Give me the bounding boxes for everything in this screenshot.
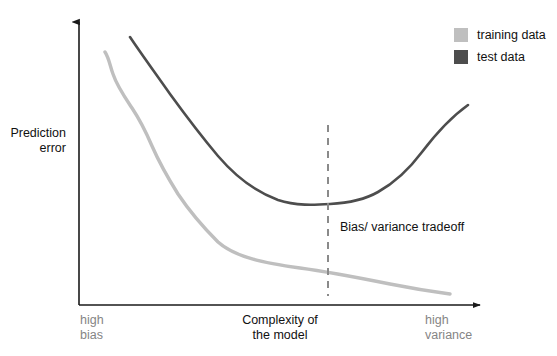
chart-legend: training data test data [454, 28, 546, 64]
y-axis-title-line2: error [40, 141, 66, 155]
x-axis-label-high-variance: highvariance [425, 313, 472, 343]
x-axis-label-high-variance-line1: high [425, 313, 449, 327]
x-axis-label-high-bias: highbias [80, 313, 104, 343]
x-axis-label-high-bias-line1: high [80, 313, 104, 327]
x-axis-title: Complexity ofthe model [210, 313, 350, 343]
legend-swatch-training-data [454, 28, 468, 42]
annotation-bias-variance-tradeoff: Bias/ variance tradeoff [340, 220, 464, 235]
y-axis-title-line1: Prediction [10, 126, 66, 140]
legend-item-training-data: training data [454, 28, 546, 42]
x-axis-title-line2: the model [253, 328, 308, 342]
bias-variance-tradeoff-chart: Predictionerror Complexity ofthe model h… [0, 0, 557, 356]
legend-label-test-data: test data [477, 50, 525, 64]
legend-label-training-data: training data [477, 28, 546, 42]
y-axis-title: Predictionerror [0, 126, 66, 156]
x-axis-label-high-bias-line2: bias [80, 328, 103, 342]
legend-swatch-test-data [454, 50, 468, 64]
series-line-test-data [130, 37, 468, 205]
legend-item-test-data: test data [454, 50, 546, 64]
x-axis-label-high-variance-line2: variance [425, 328, 472, 342]
series-line-training-data [105, 52, 450, 294]
x-axis-title-line1: Complexity of [242, 313, 318, 327]
